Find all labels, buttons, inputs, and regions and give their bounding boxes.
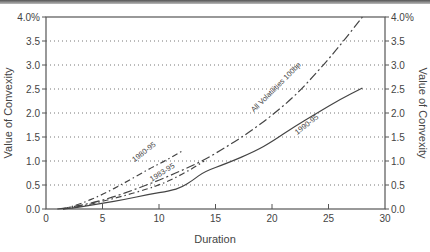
y-tick-label: 2.0 <box>391 108 405 119</box>
x-axis: 051015202530 <box>43 204 391 224</box>
y-tick-label: 0.5 <box>391 180 405 191</box>
y-tick-label: 1.0 <box>26 156 40 167</box>
gridlines <box>46 41 385 185</box>
series-label: 1980-95 <box>130 140 157 164</box>
y-tick-label: 0.5 <box>26 180 40 191</box>
y-tick-label: 0.0 <box>391 204 405 215</box>
y-axis-label-right: Value of Convexity <box>417 68 429 159</box>
y-axis-right: 0.00.51.01.52.02.53.03.54.0% <box>385 12 414 215</box>
x-tick-label: 5 <box>100 213 106 224</box>
convexity-chart: 0.00.51.01.52.02.53.03.54.0% 0.00.51.01.… <box>0 0 430 252</box>
y-tick-label: 0.0 <box>26 204 40 215</box>
series-line-1990-95 <box>63 88 362 209</box>
y-tick-label: 3.0 <box>391 60 405 71</box>
y-tick-label: 4.0% <box>391 12 414 23</box>
y-tick-label: 3.5 <box>26 36 40 47</box>
x-tick-label: 15 <box>210 213 222 224</box>
y-tick-label: 1.5 <box>26 132 40 143</box>
series-label: 1983-95 <box>148 161 176 183</box>
series-lines <box>57 17 362 209</box>
x-tick-label: 0 <box>43 213 49 224</box>
x-tick-label: 20 <box>266 213 278 224</box>
series-labels: All Volatilities 100bp1990-951983-951980… <box>130 60 320 183</box>
y-tick-label: 3.0 <box>26 60 40 71</box>
y-axis-label-left: Value of Convexity <box>2 67 14 158</box>
x-tick-label: 10 <box>153 213 165 224</box>
y-tick-label: 4.0% <box>17 12 40 23</box>
y-axis-left: 0.00.51.01.52.02.53.03.54.0% <box>17 12 46 215</box>
series-label: All Volatilities 100bp <box>249 60 303 114</box>
x-axis-label: Duration <box>194 233 236 245</box>
y-tick-label: 3.5 <box>391 36 405 47</box>
y-tick-label: 1.0 <box>391 156 405 167</box>
x-tick-label: 30 <box>379 213 391 224</box>
y-tick-label: 2.5 <box>26 84 40 95</box>
y-tick-label: 2.5 <box>391 84 405 95</box>
y-tick-label: 2.0 <box>26 108 40 119</box>
y-tick-label: 1.5 <box>391 132 405 143</box>
x-tick-label: 25 <box>323 213 335 224</box>
